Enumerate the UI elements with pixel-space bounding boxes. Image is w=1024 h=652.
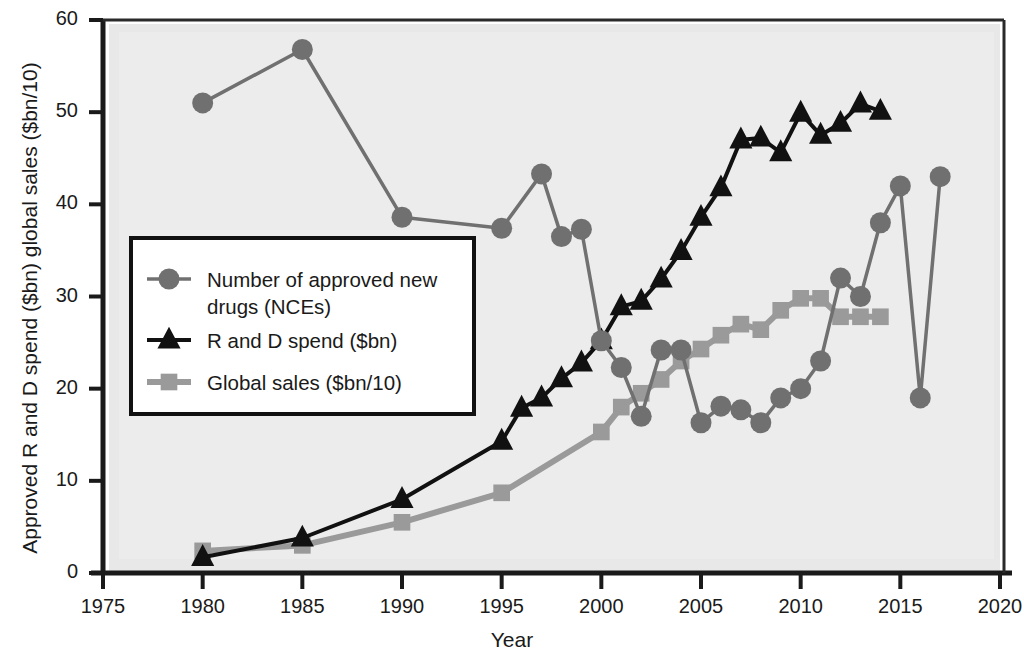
- data-point: [159, 269, 180, 290]
- x-tick-label: 2005: [656, 595, 746, 618]
- x-axis-label: Year: [0, 628, 1024, 652]
- data-point: [910, 387, 931, 408]
- y-tick-label: 0: [20, 560, 78, 583]
- legend-label: Global sales ($bn/10): [207, 371, 402, 394]
- x-tick-label: 2000: [556, 595, 646, 618]
- x-tick-label: 1985: [257, 595, 347, 618]
- data-point: [870, 212, 891, 233]
- x-tick-label: 1995: [457, 595, 547, 618]
- data-point: [551, 226, 572, 247]
- chart-plot-area: Number of approved newdrugs (NCEs)R and …: [0, 0, 1024, 652]
- data-point: [850, 286, 871, 307]
- data-point: [733, 316, 750, 333]
- data-point: [192, 92, 213, 113]
- x-tick-label: 2020: [955, 595, 1024, 618]
- y-tick-label: 50: [20, 99, 78, 122]
- data-point: [772, 302, 789, 319]
- data-point: [571, 219, 592, 240]
- data-point: [770, 387, 791, 408]
- data-point: [930, 166, 951, 187]
- data-point: [671, 339, 692, 360]
- data-point: [852, 308, 869, 325]
- data-point: [710, 396, 731, 417]
- data-point: [792, 290, 809, 307]
- data-point: [593, 424, 610, 441]
- data-point: [810, 351, 831, 372]
- data-point: [752, 321, 769, 338]
- data-point: [531, 163, 552, 184]
- x-tick-label: 1975: [58, 595, 148, 618]
- data-point: [790, 378, 811, 399]
- data-point: [631, 406, 652, 427]
- data-point: [890, 175, 911, 196]
- data-point: [832, 308, 849, 325]
- data-point: [394, 514, 411, 531]
- x-tick-label: 1980: [158, 595, 248, 618]
- y-tick-label: 20: [20, 376, 78, 399]
- legend-label: R and D spend ($bn): [207, 329, 397, 352]
- data-point: [161, 374, 178, 391]
- data-point: [493, 484, 510, 501]
- data-point: [750, 412, 771, 433]
- data-point: [830, 268, 851, 289]
- data-point: [713, 327, 730, 344]
- y-tick-label: 10: [20, 468, 78, 491]
- legend-label: drugs (NCEs): [207, 295, 331, 318]
- data-point: [292, 39, 313, 60]
- data-point: [691, 412, 712, 433]
- y-tick-label: 30: [20, 284, 78, 307]
- chart-figure: Approved R and D spend ($bn) global sale…: [0, 0, 1024, 652]
- x-tick-label: 2015: [855, 595, 945, 618]
- data-point: [613, 399, 630, 416]
- y-tick-label: 40: [20, 191, 78, 214]
- data-point: [693, 341, 710, 358]
- x-tick-label: 2010: [756, 595, 846, 618]
- data-point: [651, 339, 672, 360]
- data-point: [872, 308, 889, 325]
- data-point: [611, 357, 632, 378]
- data-point: [491, 218, 512, 239]
- data-point: [392, 207, 413, 228]
- data-point: [591, 330, 612, 351]
- legend-label: Number of approved new: [207, 268, 437, 291]
- y-tick-label: 60: [20, 7, 78, 30]
- data-point: [812, 290, 829, 307]
- x-tick-label: 1990: [357, 595, 447, 618]
- data-point: [730, 399, 751, 420]
